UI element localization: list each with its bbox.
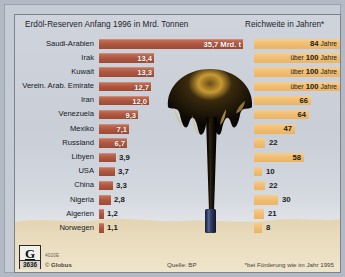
reserve-bar-group: 1,1 [99, 223, 104, 233]
chart-row: USA3,710 [15, 165, 340, 179]
country-label: Kuwait [14, 67, 94, 76]
chart-header: Erdöl-Reserven Anfang 1996 in Mrd. Tonne… [15, 20, 340, 36]
country-label: Norwegen [14, 223, 94, 232]
reserve-bar-group: 35,7 Mrd. t [99, 39, 243, 49]
reserve-value-label: 3,3 [116, 181, 127, 191]
range-bar-group: 22 [254, 138, 265, 148]
range-bar [254, 223, 262, 233]
reserve-bar [99, 209, 104, 219]
range-value-label: über 100 Jahre [290, 82, 337, 92]
range-value-label: 66 [300, 96, 308, 106]
reserve-bar: 12,7 [99, 82, 151, 92]
range-bar [254, 138, 265, 148]
range-bar: 47 [254, 124, 295, 134]
source-label: Quelle: BP [167, 261, 197, 268]
range-bar [254, 195, 278, 205]
reserve-value-label: 6,7 [114, 139, 125, 149]
reserve-bar: 6,7 [99, 138, 127, 148]
chart-panel: Erdöl-Reserven Anfang 1996 in Mrd. Tonne… [14, 14, 341, 273]
country-label: Algerien [14, 209, 94, 218]
range-bar-group: 21 [254, 209, 264, 219]
reserve-bar-group: 1,2 [99, 209, 104, 219]
reserve-bar: 12,0 [99, 96, 149, 106]
range-bar: über 100 Jahre [254, 82, 340, 92]
chart-row: Irak13,4über 100 Jahre [15, 51, 340, 65]
country-label: USA [14, 166, 94, 175]
range-value-label: 58 [293, 153, 301, 163]
range-bar [254, 167, 262, 177]
outer-frame: Erdöl-Reserven Anfang 1996 in Mrd. Tonne… [4, 4, 341, 273]
reserve-bar: 35,7 Mrd. t [99, 39, 243, 49]
reserve-bar-group: 7,1 [99, 124, 129, 134]
reserve-value-label: 3,9 [119, 153, 130, 163]
reserve-bar [99, 223, 104, 233]
globus-logo: G 3636 [19, 245, 41, 269]
chart-row: Venezuela9,364 [15, 108, 340, 122]
country-label: Russland [14, 138, 94, 147]
range-value-label: 8 [266, 223, 270, 233]
reserve-bar: 9,3 [99, 110, 138, 120]
range-bar-group: 30 [254, 195, 278, 205]
range-value-label: 30 [282, 195, 291, 205]
range-bar [254, 181, 265, 191]
range-bar: 66 [254, 96, 311, 106]
range-value-label: 47 [284, 124, 292, 134]
reserve-value-label: 1,1 [107, 223, 118, 233]
infographic-page: Erdöl-Reserven Anfang 1996 in Mrd. Tonne… [0, 0, 345, 277]
range-value-label: 84 Jahre [310, 39, 337, 49]
country-label: Libyen [14, 152, 94, 161]
reserve-value-label: 2,8 [114, 195, 125, 205]
reserve-bar [99, 153, 116, 163]
reserve-bar-group: 2,8 [99, 195, 111, 205]
reserve-bar: 7,1 [99, 124, 129, 134]
country-label: Verein. Arab. Emirate [14, 81, 94, 90]
reserve-bar-group: 3,9 [99, 153, 116, 163]
reserve-bar [99, 195, 111, 205]
range-bar-group: 22 [254, 181, 265, 191]
range-bar: 58 [254, 153, 304, 163]
range-bar: 64 [254, 110, 309, 120]
country-label: Irak [14, 53, 94, 62]
range-bar-group: über 100 Jahre [254, 53, 340, 63]
chart-row: Verein. Arab. Emirate12,7über 100 Jahre [15, 80, 340, 94]
reserve-value-label: 1,2 [107, 209, 118, 219]
range-bar: über 100 Jahre [254, 53, 340, 63]
reserve-bar-group: 13,4 [99, 53, 154, 63]
reserve-value-label: 3,7 [118, 167, 129, 177]
chart-row: Norwegen1,18 [15, 221, 340, 235]
copyright-symbol: © [45, 262, 49, 268]
country-label: Mexiko [14, 124, 94, 133]
range-bar: 84 Jahre [254, 39, 340, 49]
range-bar: über 100 Jahre [254, 67, 340, 77]
reserve-value-label: 9,3 [125, 111, 136, 121]
range-value-label: 64 [298, 110, 306, 120]
reserve-value-label: 13,4 [137, 54, 152, 64]
reserve-value-label: 12,7 [134, 83, 149, 93]
chart-row: Iran12,066 [15, 94, 340, 108]
range-bar-group: 10 [254, 167, 262, 177]
range-bar-group: über 100 Jahre [254, 82, 340, 92]
reserve-bar-group: 13,3 [99, 67, 154, 77]
range-bar-group: 8 [254, 223, 262, 233]
reserve-bar-group: 12,0 [99, 96, 149, 106]
chart-row: Libyen3,958 [15, 151, 340, 165]
chart-row: Mexiko7,147 [15, 122, 340, 136]
chart-footer: G 3636 4020E © Globus Quelle: BP *bei Fö… [15, 240, 340, 272]
copyright-owner: Globus [51, 262, 72, 268]
reserve-value-label: 12,0 [132, 97, 147, 107]
reserves-header-title: Erdöl-Reserven Anfang 1996 in Mrd. Tonne… [25, 20, 188, 29]
copyright-line: © Globus [45, 262, 72, 268]
chart-row: Kuwait13,3über 100 Jahre [15, 65, 340, 79]
country-label: Iran [14, 95, 94, 104]
range-header-title: Reichweite in Jahren* [245, 20, 324, 29]
range-bar-group: 47 [254, 124, 295, 134]
country-label: Nigeria [14, 195, 94, 204]
range-bar-group: 84 Jahre [254, 39, 340, 49]
reserve-value-label: 35,7 Mrd. t [203, 40, 241, 50]
country-label: China [14, 180, 94, 189]
chart-row: Russland6,722 [15, 136, 340, 150]
reserve-bar [99, 181, 113, 191]
reserve-bar-group: 12,7 [99, 82, 151, 92]
chart-row: Nigeria2,830 [15, 193, 340, 207]
reserve-bar-group: 3,3 [99, 181, 113, 191]
